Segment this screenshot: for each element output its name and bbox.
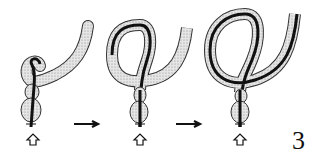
- panel-step-2: [112, 25, 200, 145]
- right-arrow-icon: [176, 121, 200, 127]
- push-arrow-icon: [234, 134, 246, 145]
- push-arrow-icon: [134, 134, 146, 145]
- panel-step-3: [210, 14, 297, 145]
- diagram-canvas: [0, 0, 324, 167]
- panel-step-1: [21, 26, 98, 145]
- figure-number: 3: [292, 128, 305, 154]
- right-arrow-icon: [74, 121, 98, 127]
- push-arrow-icon: [27, 134, 39, 145]
